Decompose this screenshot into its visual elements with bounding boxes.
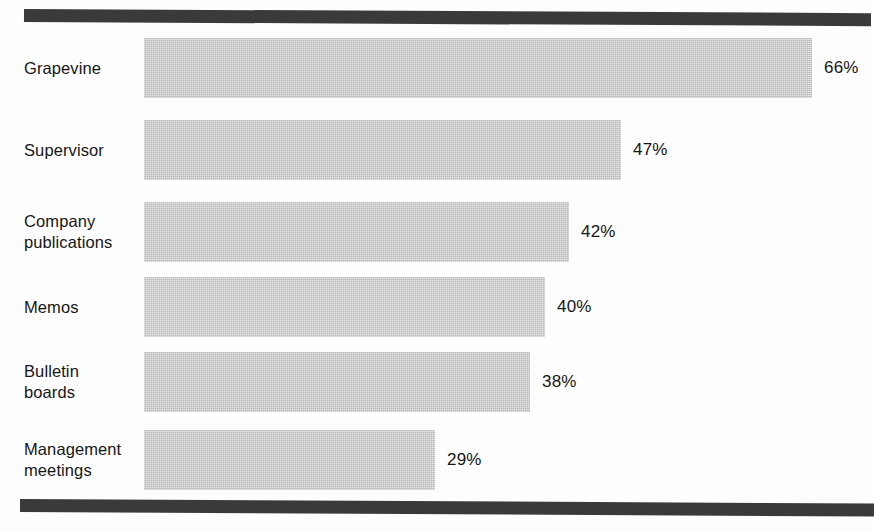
category-label: Memos xyxy=(24,277,138,337)
category-label: Supervisor xyxy=(24,120,138,180)
bar-value-label: 29% xyxy=(447,430,482,490)
bar-value-label: 47% xyxy=(633,120,668,180)
plot-area: Grapevine 66% Supervisor 47% Company pub… xyxy=(0,30,874,495)
bar xyxy=(144,430,435,490)
bottom-rule xyxy=(20,499,874,516)
category-label: Grapevine xyxy=(24,38,138,98)
bar xyxy=(144,352,530,412)
chart-row: Company publications 42% xyxy=(0,202,874,262)
bar-value-label: 42% xyxy=(581,202,616,262)
bar-value-label: 40% xyxy=(557,277,592,337)
category-label: Company publications xyxy=(24,202,138,262)
top-rule xyxy=(24,9,871,26)
chart-row: Memos 40% xyxy=(0,277,874,337)
chart-row: Supervisor 47% xyxy=(0,120,874,180)
chart-row: Management meetings 29% xyxy=(0,430,874,490)
category-label: Management meetings xyxy=(24,430,138,490)
bar xyxy=(144,38,812,98)
chart-row: Grapevine 66% xyxy=(0,38,874,98)
category-label: Bulletin boards xyxy=(24,352,138,412)
bar-value-label: 66% xyxy=(824,38,859,98)
bar xyxy=(144,277,545,337)
bar-value-label: 38% xyxy=(542,352,577,412)
chart-row: Bulletin boards 38% xyxy=(0,352,874,412)
bar xyxy=(144,202,569,262)
bar-chart-figure: Grapevine 66% Supervisor 47% Company pub… xyxy=(0,0,874,531)
bar xyxy=(144,120,621,180)
